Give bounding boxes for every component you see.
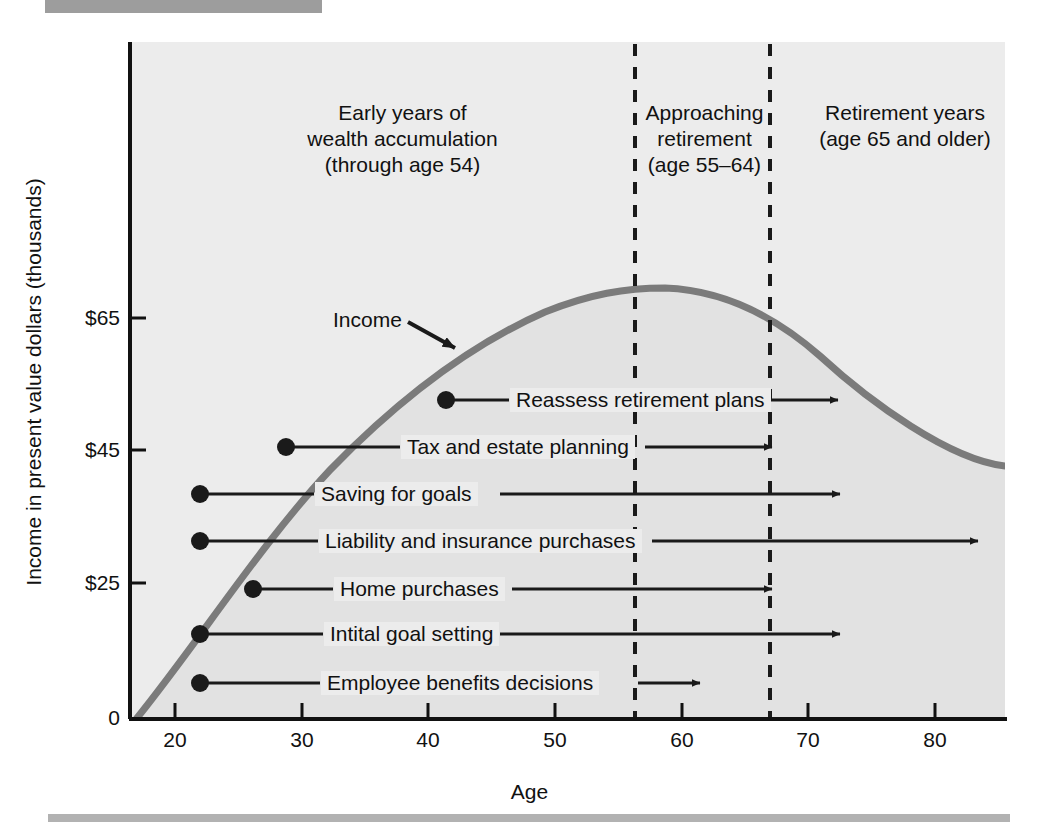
activity-dot-liability-and-insurance-purchases	[191, 532, 209, 550]
activity-dot-employee-benefits-decisions	[191, 674, 209, 692]
activity-label-tax-and-estate-planning: Tax and estate planning	[401, 435, 635, 459]
x-tick-label-30: 30	[282, 728, 322, 752]
x-tick-label-50: 50	[535, 728, 575, 752]
x-axis-title: Age	[0, 780, 1059, 804]
activity-label-reassess-retirement-plans: Reassess retirement plans	[510, 388, 771, 412]
activity-label-saving-for-goals: Saving for goals	[315, 482, 478, 506]
income-curve-label: Income	[330, 308, 405, 332]
x-tick-label-40: 40	[408, 728, 448, 752]
activity-label-liability-and-insurance-purchases: Liability and insurance purchases	[319, 529, 642, 553]
income-area-fill	[137, 288, 1005, 718]
income-curve-group	[137, 288, 1005, 718]
activity-dot-home-purchases	[244, 580, 262, 598]
zone-label-early-years: Early years of wealth accumulation (thro…	[265, 100, 540, 178]
x-tick-label-60: 60	[662, 728, 702, 752]
activity-label-employee-benefits-decisions: Employee benefits decisions	[321, 671, 599, 695]
activity-label-intital-goal-setting: Intital goal setting	[324, 622, 499, 646]
y-tick-label-65: $65	[58, 306, 120, 330]
figure-container: $65 $45 $25 0 20 30 40 50 60 70 80 Incom…	[0, 0, 1059, 835]
zone-label-retirement-years: Retirement years (age 65 and older)	[790, 100, 1020, 152]
activity-dot-intital-goal-setting	[191, 625, 209, 643]
activity-dot-reassess-retirement-plans	[437, 391, 455, 409]
y-tick-label-25: $25	[58, 571, 120, 595]
activity-dot-saving-for-goals	[191, 485, 209, 503]
activity-label-home-purchases: Home purchases	[334, 577, 505, 601]
y-tick-label-0: 0	[58, 706, 120, 730]
x-tick-label-80: 80	[915, 728, 955, 752]
activity-dot-tax-and-estate-planning	[277, 438, 295, 456]
y-tick-label-45: $45	[58, 438, 120, 462]
zone-label-approaching-retirement: Approaching retirement (age 55–64)	[642, 100, 767, 178]
x-tick-label-20: 20	[155, 728, 195, 752]
x-tick-label-70: 70	[788, 728, 828, 752]
y-axis-title: Income in present value dollars (thousan…	[22, 102, 46, 662]
income-callout-arrow	[408, 322, 455, 348]
